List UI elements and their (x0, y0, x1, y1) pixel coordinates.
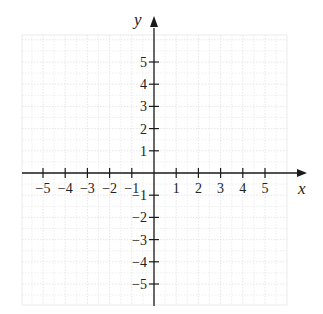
y-tick-label: 3 (140, 99, 147, 114)
y-axis-arrow-icon (150, 16, 158, 27)
x-tick-label: −2 (102, 181, 117, 196)
x-tick-label: 2 (195, 181, 202, 196)
y-tick-label: 5 (140, 55, 147, 70)
y-tick-label: −1 (132, 188, 147, 203)
x-tick-label: −3 (80, 181, 95, 196)
x-tick-label: −4 (58, 181, 73, 196)
y-tick-label: −3 (132, 233, 147, 248)
x-axis-label: x (297, 179, 306, 198)
y-tick-label: 4 (140, 77, 147, 92)
y-tick-label: 2 (140, 122, 147, 137)
x-tick-label: −5 (36, 181, 51, 196)
y-tick-label: −5 (132, 277, 147, 292)
coordinate-plane: −5−4−3−2−112345−5−4−3−2−112345 x y (0, 0, 323, 314)
y-tick-label: 1 (140, 144, 147, 159)
x-tick-label: 3 (217, 181, 224, 196)
y-tick-label: −2 (132, 210, 147, 225)
y-axis-label: y (132, 10, 142, 29)
x-tick-label: 1 (173, 181, 180, 196)
x-axis-arrow-icon (297, 169, 307, 177)
x-tick-label: 5 (262, 181, 269, 196)
y-tick-label: −4 (132, 255, 147, 270)
x-tick-label: 4 (239, 181, 246, 196)
